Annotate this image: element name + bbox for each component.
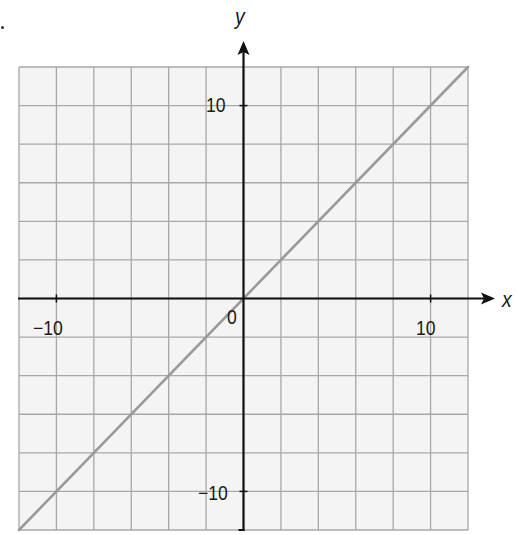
x-tick-label-10: 10 [416,318,436,338]
x-tick-label-neg10: −10 [33,318,63,338]
coordinate-plane [0,0,519,535]
y-tick-label-10: 10 [206,95,226,115]
x-axis-label: x [502,289,512,311]
y-axis-label: y [235,6,245,28]
y-tick-label-neg10: −10 [198,483,228,503]
origin-label: 0 [227,307,237,327]
